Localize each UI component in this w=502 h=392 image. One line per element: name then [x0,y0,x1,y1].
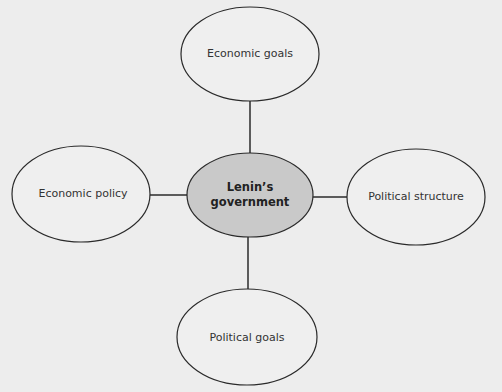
label-political-goals: Political goals [209,331,284,345]
center-line-1: Lenin’s [200,180,300,195]
label-political-structure: Political structure [368,190,464,204]
label-center: Lenin’s government [200,180,300,210]
label-economic-policy: Economic policy [38,187,127,201]
spider-diagram: Economic goals Economic policy Political… [0,0,502,392]
center-line-2: government [200,195,300,210]
label-economic-goals: Economic goals [207,47,293,61]
